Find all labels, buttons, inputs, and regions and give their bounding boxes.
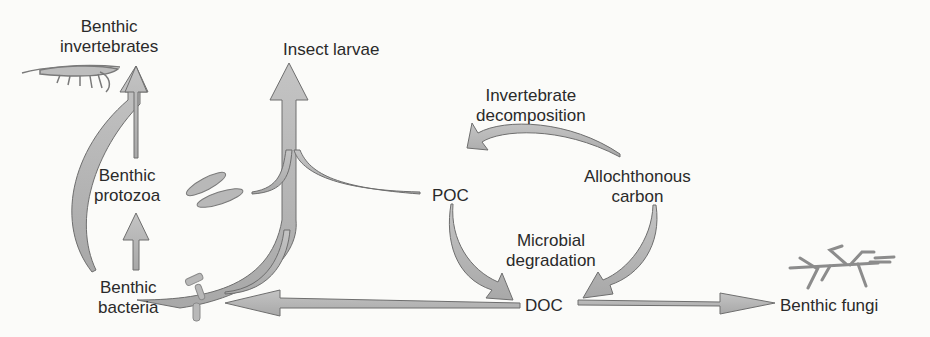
label-line: Microbial: [506, 231, 596, 251]
shrimp-icon: [22, 66, 120, 92]
arrow-trunk-to-insect-larvae: [137, 63, 308, 308]
label-line: Invertebrate: [476, 86, 586, 106]
label-invertebrate-decomposition: Invertebrate decomposition: [476, 86, 586, 126]
fungi-icon: [790, 246, 894, 288]
label-line: decomposition: [476, 106, 586, 126]
node-line: Allochthonous: [584, 167, 691, 187]
node-benthic-invertebrates: Benthic invertebrates: [60, 17, 158, 57]
label-microbial-degradation: Microbial degradation: [506, 231, 596, 271]
node-benthic-protozoa: Benthic protozoa: [94, 166, 160, 206]
carbon-flow-diagram: Benthic invertebrates Insect larvae Bent…: [0, 0, 930, 337]
arrow-poc-to-insect-larvae: [294, 150, 420, 194]
node-line: invertebrates: [60, 37, 158, 57]
node-doc: DOC: [525, 296, 563, 316]
node-benthic-fungi: Benthic fungi: [780, 296, 878, 316]
arrow-allochthonous-to-poc: [467, 123, 620, 157]
node-benthic-bacteria: Benthic bacteria: [98, 278, 158, 318]
arrow-doc-to-fungi: [578, 293, 775, 314]
node-line: carbon: [584, 187, 691, 207]
node-insect-larvae: Insect larvae: [283, 40, 379, 60]
arrow-poc-to-doc: [449, 204, 513, 300]
node-line: Benthic: [94, 166, 160, 186]
node-poc: POC: [432, 186, 469, 206]
arrow-doc-to-bacteria: [225, 290, 520, 316]
protozoa-icon: [184, 168, 245, 211]
node-line: bacteria: [98, 298, 158, 318]
node-line: Benthic: [98, 278, 158, 298]
node-line: Benthic: [60, 17, 158, 37]
node-line: protozoa: [94, 186, 160, 206]
label-line: degradation: [506, 251, 596, 271]
arrow-bacteria-to-protozoa: [123, 213, 149, 270]
node-allochthonous-carbon: Allochthonous carbon: [584, 167, 691, 207]
